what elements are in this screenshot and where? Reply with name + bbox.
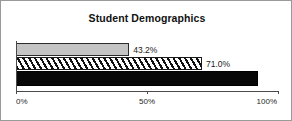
x-axis-tick xyxy=(147,91,148,94)
bar-series-3 xyxy=(16,71,258,86)
x-axis-tick-label: 0% xyxy=(16,97,28,106)
x-axis-tick-label: 100% xyxy=(257,97,277,106)
chart-container: Student Demographics 43.2% 71.0% 92.5% 0… xyxy=(0,0,292,121)
plot-area: 43.2% 71.0% 92.5% xyxy=(16,43,278,91)
x-axis-tick-label: 50% xyxy=(139,97,155,106)
x-axis-tick xyxy=(278,91,279,94)
chart-title: Student Demographics xyxy=(1,12,292,24)
bar-value-label: 43.2% xyxy=(133,45,157,55)
y-axis-line xyxy=(16,41,17,92)
bar-value-label: 71.0% xyxy=(206,59,230,69)
bar-series-1 xyxy=(16,43,129,56)
x-axis-tick xyxy=(16,91,17,94)
bar-series-2 xyxy=(16,57,202,70)
